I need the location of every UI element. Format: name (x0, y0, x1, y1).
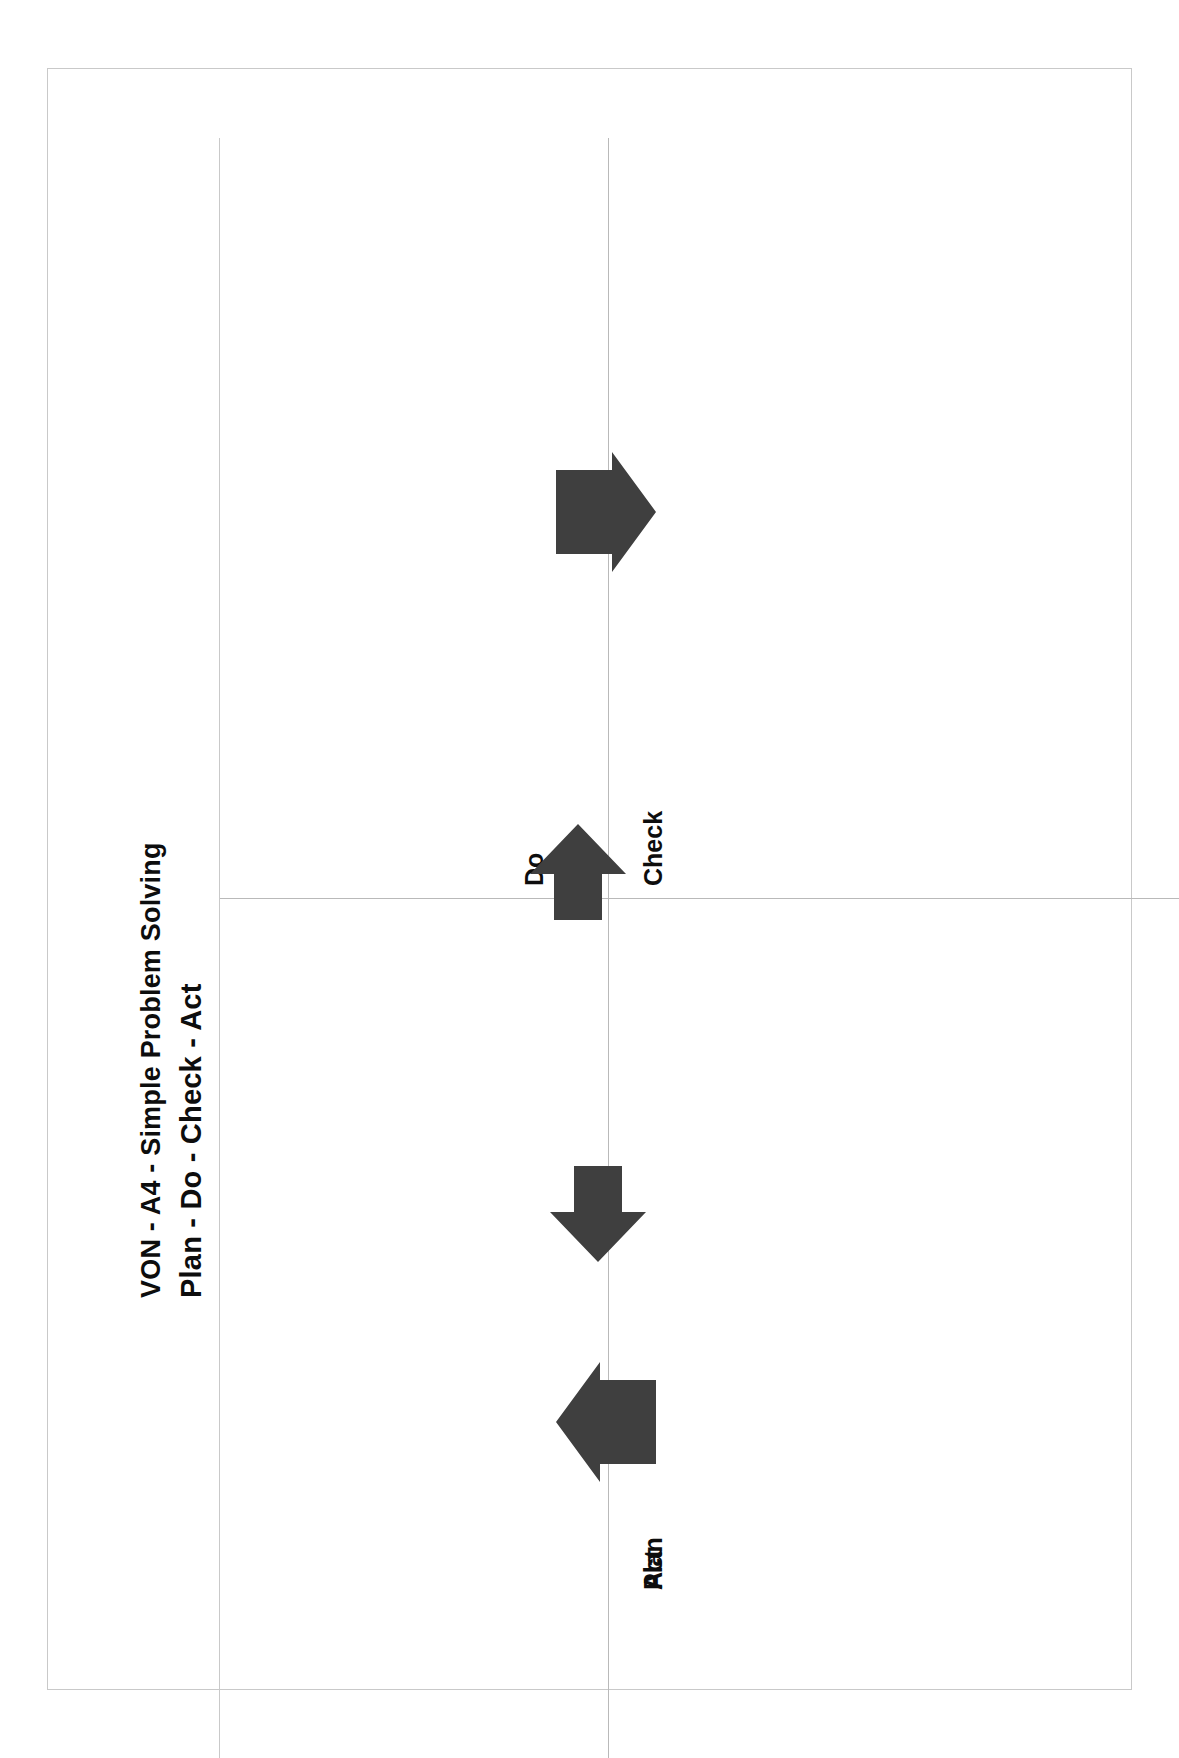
arrow-plan-to-do-icon (522, 816, 634, 928)
arrow-act-to-plan-icon (550, 1360, 662, 1490)
title-band: VON - A4 - Simple Problem Solving Plan -… (96, 138, 220, 1758)
document-title-line-1: VON - A4 - Simple Problem Solving (136, 842, 167, 1298)
grid-divider-horizontal (220, 898, 1179, 899)
document-frame: VON - A4 - Simple Problem Solving Plan -… (47, 68, 1132, 1690)
grid-divider-vertical (608, 138, 609, 1758)
arrow-check-to-act-icon (542, 1158, 654, 1270)
document-title-line-2: Plan - Do - Check - Act (175, 983, 208, 1298)
quadrant-label-act: Act (639, 1550, 668, 1590)
pdca-quadrant-grid: Plan Do Check Act (220, 138, 1179, 1758)
quadrant-label-check: Check (639, 811, 668, 886)
arrow-do-to-check-icon (550, 450, 662, 580)
